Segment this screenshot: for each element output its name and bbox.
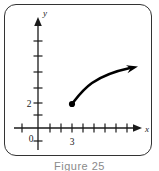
function-curve [72,68,130,104]
x-axis-label: x [144,124,149,134]
figure-container: y x 0 3 2 Figure 25 [0,0,159,171]
coordinate-plot: y x 0 3 2 [0,0,159,160]
y-axis-label: y [42,8,47,18]
figure-caption: Figure 25 [0,160,159,171]
arrow-up-icon [34,17,42,26]
arrow-right-icon [133,124,142,132]
x-tick-label-3: 3 [70,137,75,147]
filled-dot-icon [69,101,75,107]
y-tick-label-2: 2 [27,99,32,109]
x-tick-label-0: 0 [29,134,34,144]
